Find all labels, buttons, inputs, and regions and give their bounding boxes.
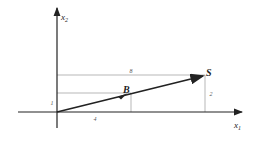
vector-os (57, 76, 203, 112)
vector-diagram: x2 x1 B S 8 1 4 2 (0, 0, 258, 141)
annotation-bottom-horizontal: 4 (94, 116, 97, 122)
annotation-top-horizontal: 8 (130, 68, 133, 74)
annotation-right-vertical: 2 (210, 91, 213, 97)
x1-axis-label: x1 (233, 120, 241, 131)
x2-axis-label: x2 (60, 12, 68, 23)
point-b-label: B (122, 84, 130, 95)
annotation-left-vertical: 1 (51, 100, 54, 106)
point-s-label: S (206, 67, 212, 78)
